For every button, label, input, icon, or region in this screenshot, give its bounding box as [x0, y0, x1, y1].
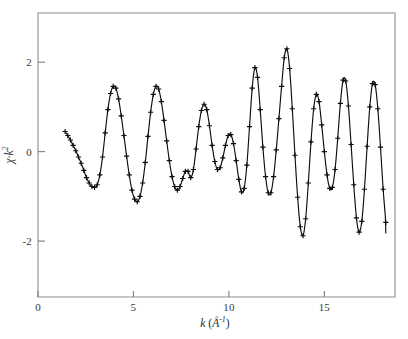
plot-canvas: [0, 0, 408, 339]
y-axis-title: χ·k2: [1, 146, 15, 163]
x-tick-label: 15: [319, 301, 330, 313]
x-axis-unit-base: Å: [212, 317, 219, 329]
x-axis-title: k (Å-1): [200, 315, 229, 329]
x-axis-unit-exponent: -1: [219, 315, 226, 324]
x-tick-label: 5: [131, 301, 137, 313]
x-axis-unit-close: ): [226, 317, 230, 329]
y-axis-symbol: χ·k: [3, 150, 15, 163]
chart-background: [0, 0, 408, 339]
y-tick-label: -2: [6, 235, 32, 247]
x-axis-unit-open: (: [205, 317, 212, 329]
y-axis-exponent: 2: [1, 146, 10, 150]
x-tick-label: 0: [35, 301, 41, 313]
x-tick-label: 10: [223, 301, 234, 313]
exafs-chart-figure: 051015 20-2 k (Å-1) χ·k2: [0, 0, 408, 339]
y-tick-label: 2: [6, 56, 32, 68]
